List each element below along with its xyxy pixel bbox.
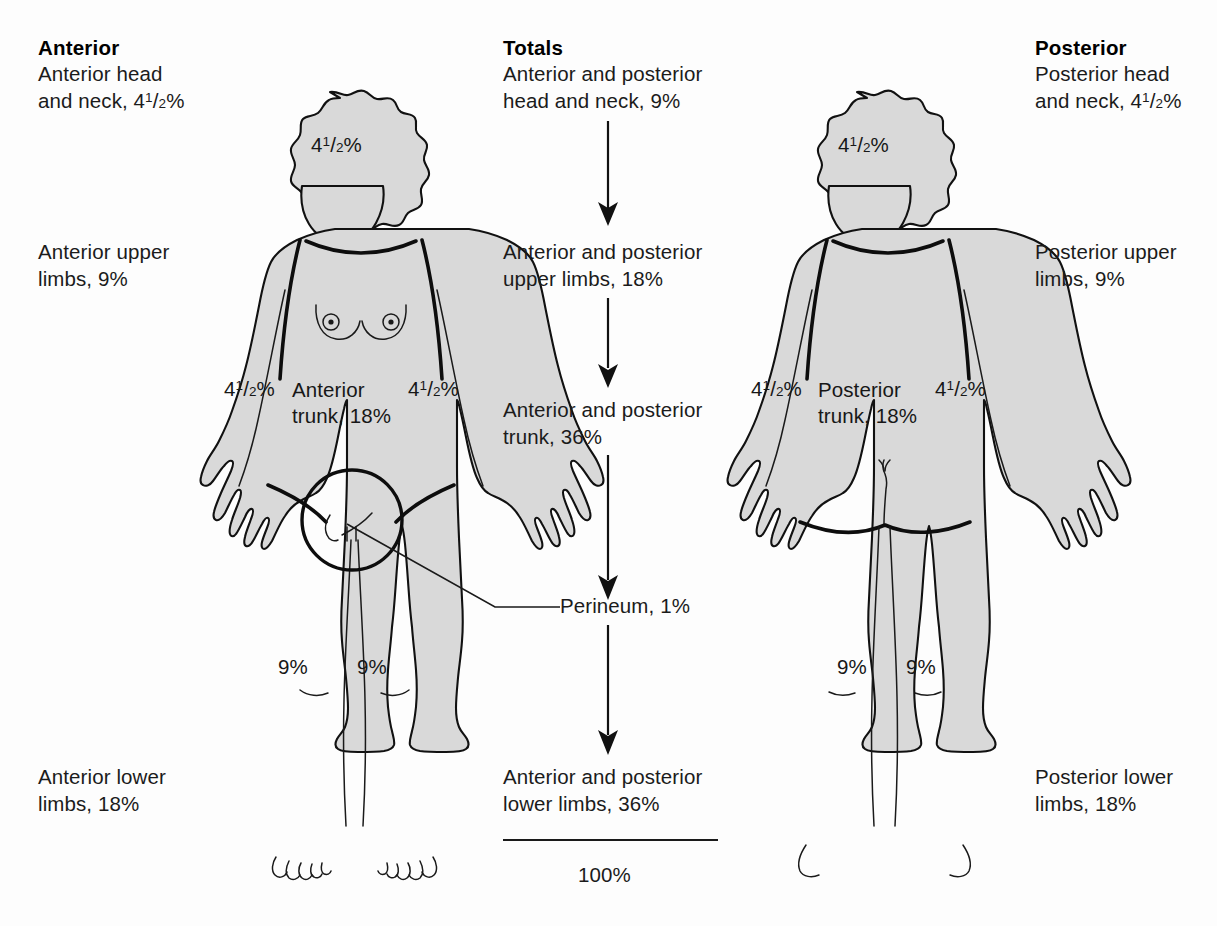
anterior-upper-limbs-label: Anterior upper limbs, 9% <box>38 238 169 292</box>
totals-heading: Totals <box>503 34 563 61</box>
anterior-torso-limbs <box>201 229 604 752</box>
posterior-head-neck-label: Posterior headand neck, 41/2% <box>1035 60 1181 114</box>
posterior-left-leg-percent: 9% <box>837 655 867 679</box>
anterior-trunk-label: Anterior trunk, 18% <box>292 377 391 429</box>
posterior-right-arm-percent: 41/2% <box>935 377 986 401</box>
anterior-head-percent: 41/2% <box>311 133 362 157</box>
posterior-upper-limbs-label: Posterior upper limbs, 9% <box>1035 238 1177 292</box>
posterior-left-knee <box>829 692 855 695</box>
posterior-right-knee <box>915 692 941 695</box>
totals-step-upper-limbs: Anterior and posterior upper limbs, 18% <box>503 238 702 292</box>
anterior-heading: Anterior <box>38 34 119 61</box>
posterior-trunk-label: Posterior trunk, 18% <box>818 377 917 429</box>
anterior-lower-limbs-label: Anterior lower limbs, 18% <box>38 763 166 817</box>
posterior-left-heel <box>799 845 819 877</box>
posterior-head-percent: 41/2% <box>838 133 889 157</box>
posterior-left-arm-percent: 41/2% <box>751 377 802 401</box>
anterior-right-arm-percent: 41/2% <box>408 377 459 401</box>
anterior-right-leg-percent: 9% <box>357 655 387 679</box>
posterior-figure <box>728 91 1131 877</box>
anterior-left-leg-percent: 9% <box>278 655 308 679</box>
posterior-lower-limbs-label: Posterior lower limbs, 18% <box>1035 763 1173 817</box>
fraction-4-and-half: 41/2 <box>134 87 167 114</box>
anterior-left-nipple-dot <box>328 319 333 324</box>
anterior-left-knee <box>300 690 328 695</box>
totals-step-lower-limbs: Anterior and posterior lower limbs, 36% <box>503 763 702 817</box>
anterior-left-toes <box>272 857 331 879</box>
posterior-right-heel <box>950 845 970 877</box>
burn-chart-diagram: Anterior Anterior headand neck, 41/2% An… <box>0 0 1217 926</box>
anterior-head-neck-label: Anterior headand neck, 41/2% <box>38 60 184 114</box>
anterior-perineum-detail <box>326 515 338 541</box>
anterior-right-nipple-dot <box>388 319 393 324</box>
totals-step-trunk: Anterior and posterior trunk, 36% <box>503 396 702 450</box>
anterior-figure <box>201 91 604 880</box>
posterior-heading: Posterior <box>1035 34 1127 61</box>
anterior-left-arm-percent: 41/2% <box>224 377 275 401</box>
posterior-right-leg-percent: 9% <box>906 655 936 679</box>
totals-step-head-neck: Anterior and posterior head and neck, 9% <box>503 60 702 114</box>
totals-sum-value: 100% <box>578 861 631 888</box>
anterior-right-toes <box>378 857 437 879</box>
totals-step-perineum: Perineum, 1% <box>560 592 690 619</box>
